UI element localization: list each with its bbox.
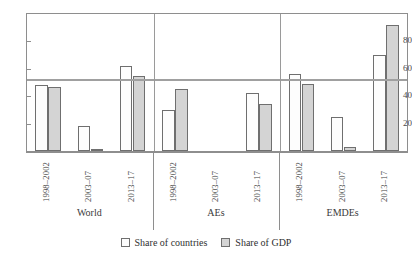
bar-share-of-countries-aes-2013-17 bbox=[246, 93, 259, 151]
chart-root: 20406080 1998–20022003–072013–171998–200… bbox=[0, 0, 412, 254]
period-label-world-0: 1998–2002 bbox=[41, 162, 51, 202]
group-label-world: World bbox=[26, 207, 153, 218]
bar-share-of-countries-world-2003-07 bbox=[78, 126, 91, 151]
group-label-aes: AEs bbox=[153, 207, 280, 218]
y-tick-label-80: 80 bbox=[390, 36, 412, 45]
bar-share-of-countries-emdes-1998-2002 bbox=[289, 74, 302, 151]
y-tick-mark-20 bbox=[26, 124, 31, 125]
period-label-aes-2: 2013–17 bbox=[252, 171, 262, 202]
y-tick-mark-80 bbox=[26, 41, 31, 42]
y-tick-label-60: 60 bbox=[390, 64, 412, 73]
plot-inner bbox=[27, 14, 407, 151]
bar-share-of-countries-emdes-2003-07 bbox=[331, 117, 344, 151]
bar-share-of-gdp-aes-1998-2002 bbox=[175, 89, 188, 151]
period-label-world-1: 2003–07 bbox=[83, 171, 93, 202]
bar-share-of-gdp-emdes-1998-2002 bbox=[302, 84, 315, 151]
group-separator-2 bbox=[280, 14, 281, 151]
y-tick-label-20: 20 bbox=[390, 119, 412, 128]
plot-area bbox=[26, 13, 408, 152]
period-label-band: 1998–20022003–072013–171998–20022003–072… bbox=[26, 152, 408, 204]
group-separator-1 bbox=[154, 14, 155, 151]
group-label-band: WorldAEsEMDEs bbox=[26, 205, 408, 227]
legend-swatch-countries-icon bbox=[121, 238, 130, 247]
period-label-emdes-0: 1998–2002 bbox=[294, 162, 304, 202]
legend-label-countries: Share of countries bbox=[135, 237, 208, 248]
bar-share-of-gdp-world-2013-17 bbox=[133, 76, 146, 151]
cropped-caption-fragment bbox=[170, 0, 410, 4]
legend-label-gdp: Share of GDP bbox=[235, 237, 291, 248]
bar-share-of-gdp-world-1998-2002 bbox=[48, 87, 61, 151]
legend-item-gdp[interactable]: Share of GDP bbox=[221, 237, 291, 248]
bar-share-of-gdp-aes-2013-17 bbox=[259, 104, 272, 151]
bar-share-of-gdp-world-2003-07 bbox=[91, 149, 104, 151]
y-tick-mark-60 bbox=[26, 69, 31, 70]
reference-line bbox=[27, 79, 407, 81]
bar-share-of-countries-aes-1998-2002 bbox=[162, 110, 175, 151]
legend-swatch-gdp-icon bbox=[221, 238, 230, 247]
bar-share-of-countries-emdes-2013-17 bbox=[373, 55, 386, 151]
period-label-world-2: 2013–17 bbox=[126, 171, 136, 202]
period-label-emdes-2: 2013–17 bbox=[379, 171, 389, 202]
bar-share-of-gdp-emdes-2003-07 bbox=[344, 147, 357, 151]
bar-share-of-countries-world-1998-2002 bbox=[35, 85, 48, 151]
period-label-emdes-1: 2003–07 bbox=[337, 171, 347, 202]
legend-item-countries[interactable]: Share of countries bbox=[121, 237, 208, 248]
group-label-emdes: EMDEs bbox=[279, 207, 406, 218]
y-tick-mark-40 bbox=[26, 96, 31, 97]
label-band-rule bbox=[26, 152, 408, 153]
period-label-aes-0: 1998–2002 bbox=[168, 162, 178, 202]
y-tick-label-40: 40 bbox=[390, 91, 412, 100]
chart-legend: Share of countriesShare of GDP bbox=[0, 233, 412, 251]
period-label-aes-1: 2003–07 bbox=[210, 171, 220, 202]
